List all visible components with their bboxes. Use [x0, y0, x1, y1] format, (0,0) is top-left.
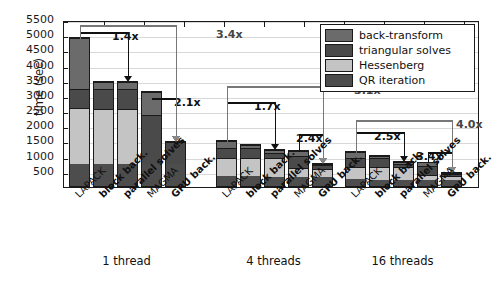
legend-item[interactable]: QR iteration [325, 73, 470, 88]
y-tick-label: 5000 [8, 30, 54, 40]
y-tick-mark [64, 37, 68, 38]
annotation-label: 1.4x [112, 30, 139, 43]
annotation-stem [227, 86, 229, 142]
annotation-label: 4.0x [456, 118, 483, 131]
group-label-16-threads: 16 threads [369, 254, 437, 268]
y-tick-label: 4500 [8, 45, 54, 55]
y-tick-label: 5500 [8, 15, 54, 25]
annotation-stem [80, 25, 82, 39]
bar-segment-triangular-solves [94, 89, 113, 108]
bar-segment-Hessenberg [217, 158, 236, 177]
bar-1-thread-lapack[interactable] [69, 37, 90, 187]
bar-segment-back-transform [94, 82, 113, 89]
annotation-arrowhead [271, 144, 279, 150]
legend-swatch [325, 44, 353, 57]
y-tick-mark [64, 83, 68, 84]
top-tick-mark [224, 22, 225, 27]
annotation-rail [152, 98, 176, 100]
annotation-arrowhead [124, 76, 132, 82]
bar-segment-triangular-solves [70, 89, 89, 108]
y-tick-label: 1500 [8, 136, 54, 146]
annotation-rail [80, 25, 176, 27]
annotation-stem [356, 120, 358, 153]
bar-segment-back-transform [118, 82, 137, 89]
y-tick-label: 1000 [8, 152, 54, 162]
legend-item[interactable]: triangular solves [325, 43, 470, 58]
annotation-arrowhead [319, 158, 327, 164]
annotation-label: 1.7x [254, 100, 281, 113]
y-tick-label: 2500 [8, 106, 54, 116]
legend-swatch [325, 59, 353, 72]
y-tick-mark [64, 128, 68, 129]
bar-segment-triangular-solves [241, 148, 260, 158]
y-tick-mark [64, 143, 68, 144]
y-tick-label: 3500 [8, 76, 54, 86]
y-tick-mark [64, 174, 68, 175]
top-tick-mark [264, 22, 265, 27]
annotation-label: 2.5x [374, 130, 401, 143]
annotation-label: 2.1x [174, 96, 201, 109]
legend-swatch [325, 74, 353, 87]
annotation-drop [176, 25, 178, 137]
y-tick-label: 3000 [8, 91, 54, 101]
y-tick-label: 500 [8, 167, 54, 177]
legend-item[interactable]: Hessenberg [325, 58, 470, 73]
bar-segment-triangular-solves [217, 148, 236, 158]
y-tick-mark [64, 52, 68, 53]
y-tick-mark [64, 68, 68, 69]
top-tick-mark [304, 22, 305, 27]
group-label-1-thread: 1 thread [93, 254, 161, 268]
y-tick-mark [64, 98, 68, 99]
legend-label: QR iteration [359, 74, 425, 87]
bar-segment-triangular-solves [118, 89, 137, 108]
y-tick-label: 2000 [8, 121, 54, 131]
bar-segment-back-transform [217, 141, 236, 148]
group-label-4-threads: 4 threads [240, 254, 308, 268]
y-tick-mark [64, 159, 68, 160]
legend-label: triangular solves [359, 44, 451, 57]
y-tick-label: 4000 [8, 61, 54, 71]
y-tick-mark [64, 22, 68, 23]
legend-label: Hessenberg [359, 59, 424, 72]
annotation-drop [404, 132, 406, 157]
legend-swatch [325, 29, 353, 42]
bar-segment-triangular-solves [370, 158, 389, 166]
bar-segment-Hessenberg [70, 108, 89, 163]
bar-segment-back-transform [142, 92, 161, 114]
y-tick-mark [64, 113, 68, 114]
bar-segment-back-transform [70, 38, 89, 89]
annotation-label: 3.4x [216, 28, 243, 41]
gridline [64, 22, 478, 23]
top-tick-mark [184, 22, 185, 27]
bar-segment-Hessenberg [94, 109, 113, 164]
legend: back-transformtriangular solvesHessenber… [320, 24, 475, 92]
annotation-rail [356, 120, 452, 122]
legend-item[interactable]: back-transform [325, 28, 470, 43]
legend-label: back-transform [359, 29, 443, 42]
annotation-rail [227, 86, 323, 88]
